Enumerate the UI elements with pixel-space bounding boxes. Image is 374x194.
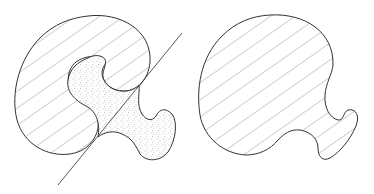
left-panel	[15, 15, 182, 185]
diagram	[0, 0, 374, 194]
right-panel	[199, 15, 358, 159]
hatched-region	[199, 15, 358, 159]
